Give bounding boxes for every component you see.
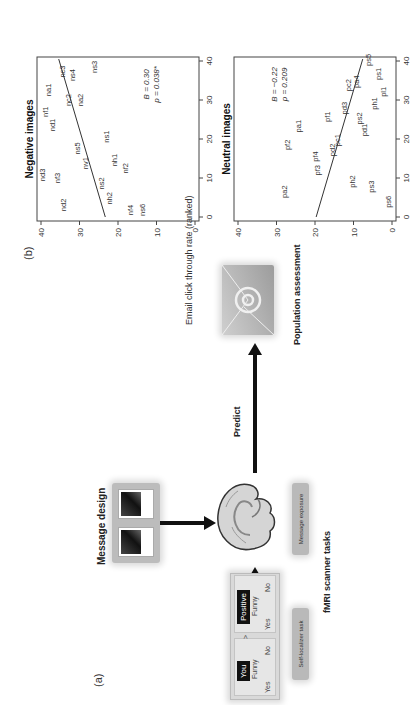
data-point-ns6: ns6 bbox=[138, 204, 147, 216]
data-point-nh1: nh1 bbox=[110, 154, 119, 167]
x-tick-label-negative: 0 bbox=[205, 214, 214, 219]
y-tick-label-neutral: 10 bbox=[350, 227, 359, 236]
data-point-ps2: ps2 bbox=[355, 112, 364, 124]
scatter-charts: Negative images010203040010203040nd3nf3n… bbox=[0, 0, 411, 705]
x-tick-label-negative: 30 bbox=[205, 95, 214, 104]
plot-frame-neutral bbox=[234, 57, 396, 221]
stat-annotation-neutral: B = −0.22 bbox=[270, 67, 279, 102]
x-tick-label-negative: 20 bbox=[205, 134, 214, 143]
data-point-nc3: nc3 bbox=[58, 65, 67, 77]
y-tick-label-negative: 10 bbox=[153, 227, 162, 236]
chart-title-negative: Negative images bbox=[24, 99, 35, 178]
data-point-pf1: pf1 bbox=[323, 112, 332, 122]
data-point-nd1: nd1 bbox=[48, 119, 57, 132]
regression-line-negative bbox=[59, 59, 106, 217]
stat-annotation-negative: B = 0.30 bbox=[142, 69, 151, 100]
data-point-pa4: pa4 bbox=[352, 75, 361, 88]
data-point-ns4: ns4 bbox=[68, 69, 77, 81]
x-tick-label-neutral: 20 bbox=[402, 134, 411, 143]
chart-title-neutral: Neutral images bbox=[221, 103, 232, 175]
y-tick-label-negative: 20 bbox=[114, 227, 123, 236]
y-tick-label-negative: 0 bbox=[191, 227, 200, 232]
data-point-pd1: pd1 bbox=[360, 124, 369, 137]
y-tick-label-negative: 30 bbox=[76, 227, 85, 236]
data-point-nf1: nf1 bbox=[41, 106, 50, 116]
data-point-ps5: ps5 bbox=[364, 54, 373, 66]
data-point-ns2: ns2 bbox=[97, 177, 106, 189]
x-tick-label-negative: 10 bbox=[205, 173, 214, 182]
data-point-ps3: ps3 bbox=[367, 181, 376, 193]
stat-annotation-negative: p = 0.038* bbox=[152, 65, 161, 104]
data-point-nd2: nd2 bbox=[59, 199, 68, 212]
data-point-pf3: pf3 bbox=[313, 165, 322, 175]
data-point-pf2: pf2 bbox=[283, 140, 292, 150]
data-point-na2: na2 bbox=[76, 94, 85, 107]
x-tick-label-neutral: 40 bbox=[402, 56, 411, 65]
data-point-ps1: ps1 bbox=[374, 68, 383, 80]
x-tick-label-neutral: 0 bbox=[402, 214, 411, 219]
data-point-pc1: pc1 bbox=[333, 134, 342, 146]
data-point-ph2: ph2 bbox=[348, 175, 357, 188]
data-point-nv1: nv1 bbox=[81, 157, 90, 169]
plot-frame-negative bbox=[37, 57, 199, 221]
data-point-ph1: ph1 bbox=[370, 97, 379, 110]
y-tick-label-neutral: 30 bbox=[273, 227, 282, 236]
figure: (a) Message design Predict Pop bbox=[0, 0, 411, 705]
data-point-nf4: nf4 bbox=[126, 205, 135, 215]
x-tick-label-negative: 40 bbox=[205, 56, 214, 65]
data-point-nf3: nf3 bbox=[53, 173, 62, 183]
data-point-na1: na1 bbox=[44, 84, 53, 97]
y-tick-label-negative: 40 bbox=[37, 227, 46, 236]
data-point-pd3: pd3 bbox=[340, 102, 349, 115]
x-tick-label-neutral: 30 bbox=[402, 95, 411, 104]
stat-annotation-neutral: p = 0.209 bbox=[280, 67, 289, 102]
data-point-ns3: ns3 bbox=[90, 61, 99, 73]
y-tick-label-neutral: 20 bbox=[311, 227, 320, 236]
data-point-pa1: pa1 bbox=[294, 120, 303, 133]
data-point-nd3: nd3 bbox=[38, 169, 47, 182]
y-tick-label-neutral: 0 bbox=[388, 227, 397, 232]
data-point-ps6: ps6 bbox=[384, 196, 393, 208]
data-point-nf2: nf2 bbox=[121, 163, 130, 173]
data-point-pf4: pf4 bbox=[311, 151, 320, 161]
data-point-ns5: ns5 bbox=[73, 142, 82, 154]
data-point-nc2: nc2 bbox=[64, 94, 73, 106]
data-point-ns1: ns1 bbox=[102, 131, 111, 143]
y-tick-label-neutral: 40 bbox=[234, 227, 243, 236]
data-point-pa2: pa2 bbox=[280, 185, 289, 198]
x-tick-label-neutral: 10 bbox=[402, 173, 411, 182]
data-point-pl1: pl1 bbox=[379, 87, 388, 97]
data-point-nh2: nh2 bbox=[105, 192, 114, 205]
